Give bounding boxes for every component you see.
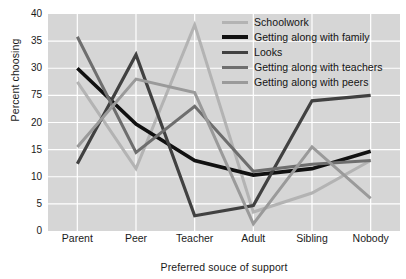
x-axis-tick-label: Teacher	[176, 232, 213, 244]
legend-swatch	[222, 66, 248, 69]
y-axis-tick-label: 75	[20, 90, 42, 100]
y-axis-tick-label: 0	[20, 226, 42, 236]
legend-swatch	[222, 51, 248, 54]
legend-label: Getting along with teachers	[254, 61, 383, 73]
legend-swatch	[222, 81, 248, 84]
line-chart: Percent choosing 0510152075303540 Parent…	[0, 0, 406, 279]
legend: SchoolworkGetting along with familyLooks…	[222, 15, 383, 89]
y-axis-tick-label: 35	[20, 36, 42, 46]
x-axis-tick-label: Peer	[125, 232, 147, 244]
x-axis-tick-label: Sibling	[296, 232, 328, 244]
x-axis-tick-label: Nobody	[353, 232, 389, 244]
legend-item[interactable]: Looks	[222, 45, 383, 59]
y-axis-tick-label: 15	[20, 145, 42, 155]
legend-label: Schoolwork	[254, 16, 309, 28]
y-axis-tick-labels: 0510152075303540	[10, 0, 42, 279]
y-axis-tick-label: 10	[20, 172, 42, 182]
legend-label: Getting along with family	[254, 31, 370, 43]
y-axis-tick-label: 30	[20, 63, 42, 73]
x-axis-tick-label: Parent	[62, 232, 93, 244]
legend-item[interactable]: Getting along with teachers	[222, 60, 383, 74]
x-axis-tick-label: Adult	[241, 232, 265, 244]
legend-item[interactable]: Getting along with peers	[222, 75, 383, 89]
y-axis-tick-label: 20	[20, 118, 42, 128]
y-axis-tick-label: 5	[20, 199, 42, 209]
legend-swatch	[222, 35, 248, 39]
x-axis-tick-labels: ParentPeerTeacherAdultSiblingNobody	[48, 232, 400, 248]
legend-label: Looks	[254, 46, 282, 58]
legend-swatch	[222, 21, 248, 24]
legend-label: Getting along with peers	[254, 76, 368, 88]
x-axis-title: Preferred souce of support	[48, 261, 400, 273]
legend-item[interactable]: Getting along with family	[222, 30, 383, 44]
legend-item[interactable]: Schoolwork	[222, 15, 383, 29]
y-axis-tick-label: 40	[20, 9, 42, 19]
